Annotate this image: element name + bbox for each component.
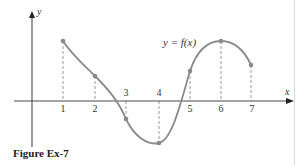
tick-label-2: 2: [93, 103, 98, 114]
tick-label-1: 1: [61, 103, 66, 114]
tick-label-4: 4: [157, 87, 162, 98]
tick-label-5: 5: [188, 103, 193, 114]
right-border: [294, 0, 295, 165]
tick-label-7: 7: [250, 103, 255, 114]
axes: [14, 16, 290, 147]
y-axis-label: y: [37, 6, 41, 17]
x-axis-label: x: [285, 86, 289, 97]
y-axis-arrow-icon: [29, 11, 35, 18]
tick-label-6: 6: [219, 103, 224, 114]
x-axis-arrow-icon: [286, 98, 294, 104]
function-label: y = f(x): [163, 36, 196, 48]
figure-caption: Figure Ex-7: [13, 147, 69, 159]
function-graph: [0, 0, 304, 165]
tick-label-3: 3: [124, 87, 129, 98]
